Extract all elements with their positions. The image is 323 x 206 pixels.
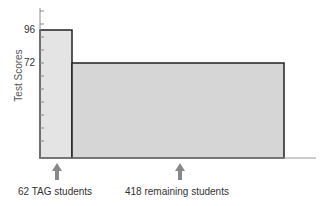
ytick-72: 72: [24, 57, 35, 68]
chart-canvas: [0, 0, 323, 206]
label-tag-students: 62 TAG students: [18, 186, 92, 197]
label-remaining-students: 418 remaining students: [125, 186, 229, 197]
arrow-up-icon: [175, 163, 185, 180]
bar-tag-students: [40, 30, 72, 158]
y-axis-label: Test Scores: [13, 46, 24, 106]
bar-remaining-students: [72, 63, 284, 158]
ytick-96: 96: [24, 24, 35, 35]
arrow-up-icon: [52, 163, 62, 180]
